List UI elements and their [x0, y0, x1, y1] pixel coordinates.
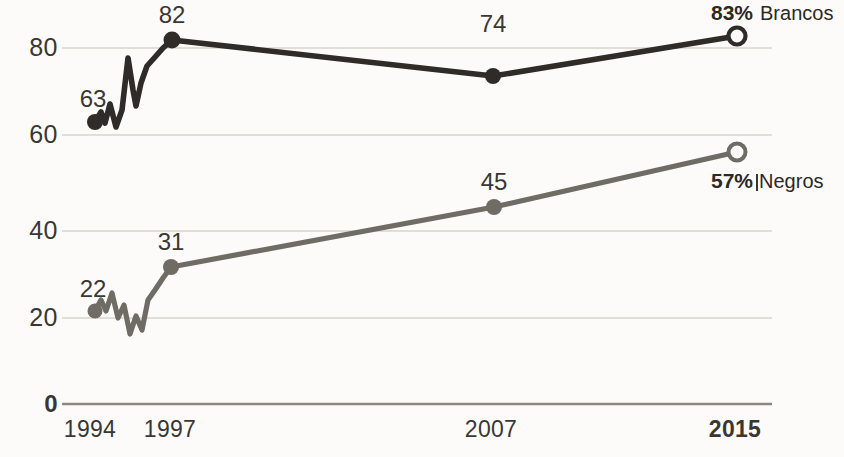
- negros-point-1994: [88, 304, 103, 319]
- negros-end-value: 57%: [711, 169, 753, 192]
- brancos-point-1997: [164, 32, 181, 49]
- negros-label-tick-icon: [756, 174, 758, 191]
- negros-point-1997: [163, 259, 179, 275]
- negros-point-2015: [729, 144, 746, 161]
- y-tick-80: 80: [0, 33, 58, 62]
- data-label-negros-1994: 22: [58, 275, 128, 303]
- series-label-negros: 57%Negros: [711, 169, 824, 193]
- data-label-brancos-1994: 63: [58, 85, 128, 113]
- series-label-brancos: 83%Brancos: [711, 1, 833, 25]
- brancos-main-line: [172, 36, 737, 76]
- data-label-negros-1997: 31: [136, 228, 206, 256]
- x-tick-1997: 1997: [110, 416, 230, 443]
- data-label-brancos-2007: 74: [458, 10, 528, 38]
- x-tick-2007: 2007: [431, 416, 551, 443]
- data-label-brancos-1997: 82: [137, 1, 207, 29]
- data-label-negros-2007: 45: [459, 168, 529, 196]
- brancos-point-2007: [485, 68, 501, 84]
- brancos-noise-segment: [95, 40, 172, 127]
- brancos-end-name: Brancos: [760, 2, 833, 24]
- negros-main-line: [171, 152, 737, 267]
- y-tick-0: 0: [0, 390, 58, 418]
- line-chart: 80 60 40 20 0 1994 1997 2007 2015 63 82 …: [0, 0, 844, 457]
- x-tick-2015: 2015: [675, 416, 795, 443]
- negros-point-2007: [486, 199, 502, 215]
- y-tick-60: 60: [0, 120, 58, 149]
- series-brancos: [87, 28, 746, 131]
- brancos-point-2015: [729, 28, 746, 45]
- y-tick-20: 20: [0, 303, 58, 332]
- gridlines: [62, 48, 772, 318]
- brancos-point-1994: [87, 114, 103, 130]
- brancos-end-value: 83%: [711, 1, 753, 24]
- chart-plot-area: [0, 0, 844, 457]
- y-tick-40: 40: [0, 216, 58, 245]
- negros-end-name: Negros: [759, 170, 823, 192]
